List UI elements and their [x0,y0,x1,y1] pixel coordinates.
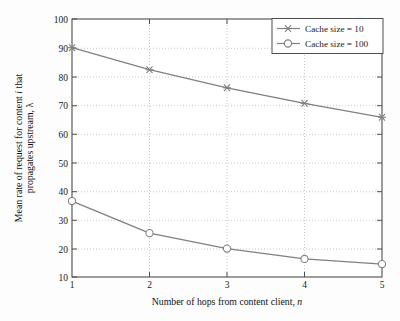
y-tick-label: 90 [59,44,69,54]
x-tick-label: 1 [70,280,75,290]
x-tick-label: 5 [380,280,385,290]
y-axis-title-line2: propagates upstream, λ [24,103,35,194]
data-point-marker [301,255,308,262]
y-tick-label: 50 [59,159,69,169]
y-tick-label: 60 [59,130,69,140]
data-point-marker [68,197,75,204]
legend-label: Cache size = 100 [305,39,368,49]
x-axis-title-text: Number of hops from content client, [152,296,298,307]
x-tick-label: 2 [147,280,152,290]
line-chart: 100 90 80 70 60 50 40 30 20 10 1 2 3 4 5 [0,0,400,321]
legend[interactable]: Cache size = 10 Cache size = 100 [272,19,383,54]
y-tick-label: 80 [59,73,69,83]
data-point-marker [146,230,153,237]
x-axis-title-italic: n [297,296,302,307]
y-axis-title: Mean rate of request for content i that … [13,74,35,223]
y-tick-label: 100 [54,15,69,25]
figure-canvas: 100 90 80 70 60 50 40 30 20 10 1 2 3 4 5 [0,0,400,321]
x-axis-title: Number of hops from content client, n [152,296,303,307]
y-axis-title-text-2: that [13,74,24,91]
x-tick-labels: 1 2 3 4 5 [70,280,385,290]
y-tick-label: 10 [59,273,69,283]
legend-label: Cache size = 10 [305,24,364,34]
x-tick-label: 3 [225,280,230,290]
y-tick-label: 70 [59,101,69,111]
circle-icon [284,40,291,47]
y-tick-label: 20 [59,245,69,255]
x-tick-label: 4 [302,280,307,290]
y-tick-label: 30 [59,216,69,226]
y-axis-title-text-1: Mean rate of request for content [13,94,24,222]
data-point-marker [378,261,385,268]
y-tick-label: 40 [59,187,69,197]
y-tick-labels: 100 90 80 70 60 50 40 30 20 10 [54,15,69,283]
data-point-marker [223,245,230,252]
svg-text:Mean rate of request for conte: Mean rate of request for content i that [13,74,24,223]
